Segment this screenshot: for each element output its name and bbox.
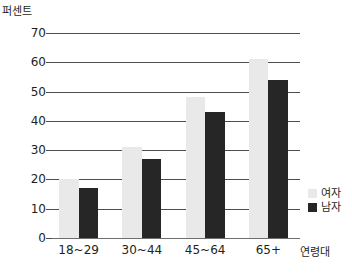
female-swatch-icon [308,189,317,198]
y-tick-mark-70 [46,33,52,34]
y-tick-label-60: 60 [6,56,46,68]
y-tick-label-10: 10 [6,203,46,215]
legend-label-male: 남자 [321,202,341,213]
bars-layer [47,33,300,238]
y-tick-label-20: 20 [6,173,46,185]
x-tick-label-30~44: 30~44 [110,243,173,257]
y-tick-mark-60 [46,62,52,63]
y-tick-label-0: 0 [6,232,46,244]
bar-male [79,188,99,238]
male-swatch-icon [308,203,317,212]
y-axis-title: 퍼센트 [2,2,31,18]
x-tick-label-18~29: 18~29 [47,243,110,257]
x-tick-label-65+: 65+ [237,243,300,257]
bar-group [122,33,161,238]
y-tick-mark-0 [46,238,52,239]
bar-chart: 퍼센트 010203040506070 18~2930~4445~6465+ 연… [0,0,352,278]
legend-label-female: 여자 [321,188,341,199]
x-tick-label-45~64: 45~64 [174,243,237,257]
bar-male [205,112,225,238]
bar-female [59,179,79,238]
legend: 여자 남자 [308,188,341,213]
y-tick-label-50: 50 [6,86,46,98]
y-tick-label-40: 40 [6,115,46,127]
legend-item-female: 여자 [308,188,341,199]
x-axis-title: 연령대 [300,243,329,259]
bar-female [249,59,269,238]
bar-male [142,159,162,238]
y-tick-label-30: 30 [6,144,46,156]
bar-female [122,147,142,238]
y-tick-mark-50 [46,92,52,93]
bar-group [59,33,98,238]
y-tick-mark-10 [46,209,52,210]
plot-area [47,33,300,238]
bar-male [268,80,288,238]
bar-group [186,33,225,238]
legend-item-male: 남자 [308,202,341,213]
y-tick-mark-40 [46,121,52,122]
y-tick-label-70: 70 [6,27,46,39]
y-tick-mark-30 [46,150,52,151]
gridline-0 [47,238,300,239]
y-tick-mark-20 [46,179,52,180]
bar-female [186,97,206,238]
bar-group [249,33,288,238]
